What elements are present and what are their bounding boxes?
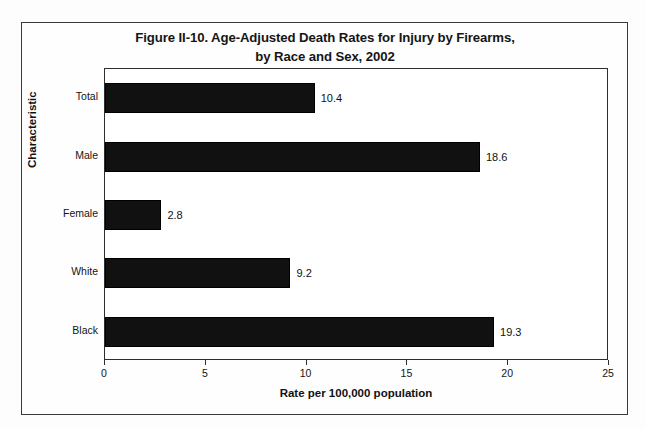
x-tick-mark	[507, 360, 508, 365]
y-tick-label-female: Female	[40, 207, 98, 219]
x-tick-label-25: 25	[593, 367, 623, 379]
bar-value-label: 18.6	[486, 151, 507, 163]
x-axis-title: Rate per 100,000 population	[104, 387, 608, 399]
bar-row: 19.3	[105, 317, 522, 347]
bar-male	[105, 142, 480, 172]
bar-row: 18.6	[105, 142, 507, 172]
x-tick-mark	[205, 360, 206, 365]
x-tick-mark	[306, 360, 307, 365]
y-tick-label-white: White	[40, 265, 98, 277]
x-tick-label-5: 5	[190, 367, 220, 379]
y-tick-label-male: Male	[40, 149, 98, 161]
figure-root: Figure II-10. Age-Adjusted Death Rates f…	[0, 0, 645, 429]
bar-female	[105, 200, 161, 230]
x-tick-label-15: 15	[391, 367, 421, 379]
bar-total	[105, 83, 315, 113]
bar-value-label: 10.4	[321, 92, 342, 104]
x-tick-mark	[104, 360, 105, 365]
bar-row: 9.2	[105, 258, 312, 288]
chart-title-line-1: Figure II-10. Age-Adjusted Death Rates f…	[135, 30, 515, 45]
x-tick-mark	[608, 360, 609, 365]
y-tick-label-total: Total	[40, 90, 98, 102]
bar-value-label: 9.2	[296, 267, 311, 279]
bar-row: 10.4	[105, 83, 342, 113]
bar-white	[105, 258, 290, 288]
bars-layer: 10.418.62.89.219.3	[105, 69, 607, 359]
bar-value-label: 2.8	[167, 209, 182, 221]
bar-black	[105, 317, 494, 347]
chart-title: Figure II-10. Age-Adjusted Death Rates f…	[60, 28, 590, 66]
x-tick-label-10: 10	[291, 367, 321, 379]
x-tick-label-20: 20	[492, 367, 522, 379]
y-tick-label-black: Black	[40, 324, 98, 336]
x-tick-label-0: 0	[89, 367, 119, 379]
bar-value-label: 19.3	[500, 326, 521, 338]
plot-area: 10.418.62.89.219.3	[104, 68, 608, 360]
x-tick-mark	[406, 360, 407, 365]
bar-row: 2.8	[105, 200, 183, 230]
y-axis-title: Characteristic	[26, 91, 38, 168]
chart-title-line-2: by Race and Sex, 2002	[60, 47, 590, 66]
